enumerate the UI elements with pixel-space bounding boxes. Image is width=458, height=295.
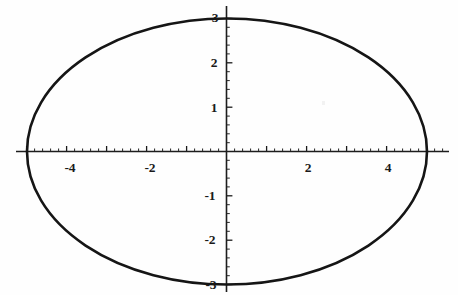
x-axis-minor-ticks: [35, 149, 443, 152]
x-tick-label-neg2: -2: [145, 161, 156, 175]
y-tick-label-pos2: 2: [211, 56, 218, 70]
x-tick-label-pos2: 2: [305, 161, 312, 175]
y-tick-label-pos1: 1: [211, 101, 218, 115]
x-tick-label-pos4: 4: [385, 161, 392, 175]
y-tick-label-neg1: -1: [205, 189, 216, 203]
ellipse-plot-figure: -4 -2 2 4 3 2 1 -1 -2 -3: [0, 0, 458, 295]
y-tick-label-neg2: -2: [205, 233, 216, 247]
scan-artifact-speck: [322, 101, 325, 105]
plot-canvas: [0, 0, 458, 295]
x-tick-label-neg4: -4: [65, 161, 76, 175]
y-tick-label-pos3: 3: [212, 11, 219, 25]
y-tick-label-neg3: -3: [206, 278, 217, 292]
